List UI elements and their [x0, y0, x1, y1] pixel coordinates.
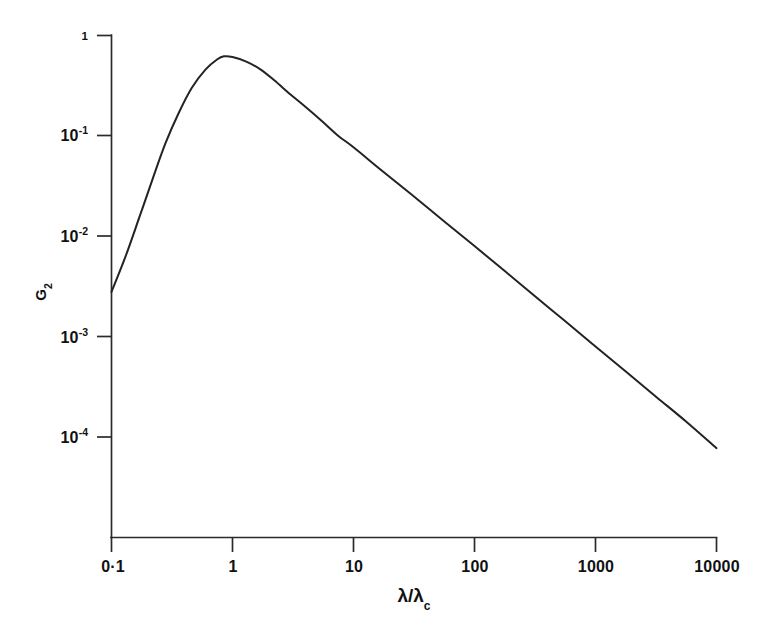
x-tick-label-0p1: 0·1: [101, 558, 125, 576]
x-tick-label-100: 100: [461, 558, 488, 576]
y-tick-label-1: 1: [28, 26, 88, 44]
data-curve-g2: [112, 56, 717, 448]
x-tick-label-10000: 10000: [694, 558, 740, 576]
x-axis-ticks: [112, 538, 717, 553]
y-axis-ticks: [97, 36, 112, 438]
y-tick-label-1e-1: 10-1: [18, 125, 88, 145]
chart-figure: 1 10-1 10-2 10-3 10-4 0·1 1 10 100 1000 …: [0, 0, 775, 631]
y-tick-label-1e-2: 10-2: [18, 226, 88, 246]
plot-canvas: [0, 0, 775, 631]
y-axis-title: G2: [32, 272, 52, 312]
x-tick-label-10: 10: [345, 558, 363, 576]
x-axis-title: λ/λc: [397, 585, 430, 610]
x-tick-label-1: 1: [228, 558, 237, 576]
x-tick-label-1000: 1000: [578, 558, 614, 576]
y-tick-label-1e-3: 10-3: [18, 327, 88, 347]
y-tick-label-1e-4: 10-4: [18, 427, 88, 447]
